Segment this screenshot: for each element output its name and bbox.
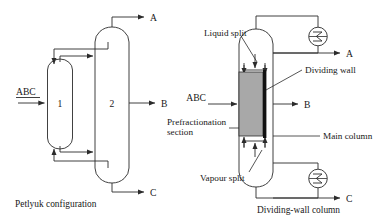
dwc-feed-label: ABC xyxy=(186,92,206,103)
dividing-wall-bar xyxy=(263,70,266,138)
dwc-condenser-outlet-line xyxy=(273,46,318,53)
figure-canvas: ABC 1 2 A B C Petlyuk configuration xyxy=(0,0,383,224)
dwc-group xyxy=(208,16,340,198)
dwc-reboiler-loop-line xyxy=(256,187,318,198)
dwc-prefractionation-label-line2: section xyxy=(167,127,193,137)
petlyuk-product-c-label: C xyxy=(150,187,156,198)
dwc-liquid-split-label: Liquid split xyxy=(204,28,247,38)
petlyuk-column-1-label: 1 xyxy=(58,98,63,109)
leader-vapour-split xyxy=(249,150,262,172)
petlyuk-product-b-label: B xyxy=(161,98,167,109)
dwc-condenser-loop-line xyxy=(256,16,318,29)
leader-liquid-split xyxy=(241,36,257,62)
petlyuk-top-liquid-line xyxy=(54,42,108,64)
petlyuk-top-vapour-line xyxy=(60,56,93,62)
dwc-vapour-split-label: Vapour split xyxy=(200,173,245,183)
petlyuk-and-dwc-diagram: ABC 1 2 A B C Petlyuk configuration xyxy=(0,0,383,224)
dwc-dividing-wall-label: Dividing wall xyxy=(305,65,356,75)
petlyuk-product-c-line xyxy=(112,183,144,192)
dwc-prefractionation-label-line1: Prefractionation xyxy=(167,117,227,127)
dwc-product-c-label: C xyxy=(346,193,352,204)
dwc-liquid-split-manifold xyxy=(244,63,265,70)
dwc-main-column-label: Main column xyxy=(323,131,373,141)
petlyuk-product-a-label: A xyxy=(150,12,157,23)
leader-dividing-wall xyxy=(266,70,302,90)
dwc-product-b-label: B xyxy=(304,99,310,110)
dwc-vapour-split-manifold xyxy=(244,141,265,148)
dwc-product-a-label: A xyxy=(346,48,353,59)
petlyuk-bottom-liquid-line xyxy=(60,146,93,152)
prefractionation-section-block xyxy=(239,72,263,136)
dwc-reboiler-inlet-line xyxy=(273,163,318,169)
petlyuk-group xyxy=(16,17,155,192)
dwc-caption: Dividing-wall column xyxy=(257,205,340,215)
petlyuk-caption: Petlyuk configuration xyxy=(15,199,97,209)
petlyuk-column-2-label: 2 xyxy=(110,98,115,109)
petlyuk-feed-label: ABC xyxy=(16,86,36,97)
petlyuk-product-a-line xyxy=(112,17,144,27)
